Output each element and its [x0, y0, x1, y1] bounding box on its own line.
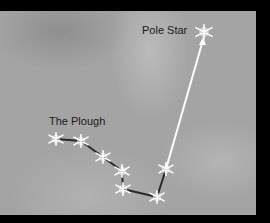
star-6: [150, 191, 164, 204]
star-5: [116, 183, 130, 196]
star-7: [159, 163, 173, 176]
star-diagram: The Plough Pole Star: [0, 0, 270, 223]
arrow-head: [199, 37, 206, 45]
pole-star-label: Pole Star: [142, 24, 188, 36]
pointer-arrow: [166, 40, 203, 169]
constellation-line: [123, 189, 157, 197]
plough-label: The Plough: [49, 115, 105, 127]
pole-star: [196, 25, 212, 39]
